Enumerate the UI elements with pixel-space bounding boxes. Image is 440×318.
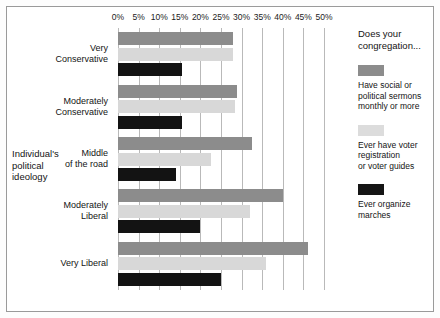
x-axis-tick-40%: 40%	[274, 12, 291, 22]
legend-title-line-2: congregation...	[358, 40, 432, 52]
bar[interactable]	[118, 220, 200, 233]
legend-label-marches-line-1: Ever organize	[358, 199, 432, 210]
legend-swatch-marches	[358, 184, 384, 195]
category-label-line: Conservative	[0, 54, 108, 65]
bar[interactable]	[118, 32, 233, 45]
x-axis-tick-30%: 30%	[233, 12, 250, 22]
category-label-moderately-liberal: ModeratelyLiberal	[0, 200, 108, 222]
legend-label-voter-registration: Ever have voter registration or voter gu…	[358, 140, 432, 172]
legend-label-sermons-line-1: Have social or	[358, 80, 432, 91]
category-label-line: Conservative	[0, 107, 108, 118]
bar[interactable]	[118, 116, 182, 129]
x-axis-tick-10%: 10%	[151, 12, 168, 22]
legend-title-line-1: Does your	[358, 28, 432, 40]
category-label-line: Very Liberal	[0, 258, 108, 269]
bar[interactable]	[118, 85, 237, 98]
x-axis-tick-35%: 35%	[254, 12, 271, 22]
bar[interactable]	[118, 242, 308, 255]
legend-item-sermons[interactable]: Have social or political sermons monthly…	[358, 65, 432, 112]
gridline-50%	[324, 28, 325, 290]
category-label-line: of the road	[0, 159, 108, 170]
plot-area: 0%5%10%15%20%25%30%35%40%45%50%	[118, 28, 324, 290]
y-axis-title-line-3: ideology	[12, 171, 90, 183]
x-axis-tick-0%: 0%	[112, 12, 124, 22]
x-axis-tick-5%: 5%	[132, 12, 144, 22]
legend-swatch-voter-registration	[358, 125, 384, 136]
chart-frame: Individual's political ideology 0%5%10%1…	[0, 0, 440, 318]
category-label-line: Very	[0, 43, 108, 54]
category-label-very-conservative: VeryConservative	[0, 43, 108, 65]
x-axis-tick-50%: 50%	[315, 12, 332, 22]
bar[interactable]	[118, 273, 221, 286]
x-axis-tick-25%: 25%	[212, 12, 229, 22]
legend-label-voter-registration-line-1: Ever have voter	[358, 140, 432, 151]
bar[interactable]	[118, 189, 283, 202]
bar[interactable]	[118, 205, 250, 218]
legend-title: Does your congregation...	[358, 28, 432, 51]
legend-swatch-sermons	[358, 65, 384, 76]
legend-label-sermons: Have social or political sermons monthly…	[358, 80, 432, 112]
category-label-line: Moderately	[0, 200, 108, 211]
category-label-line: Liberal	[0, 211, 108, 222]
bar[interactable]	[118, 48, 233, 61]
x-axis-tick-20%: 20%	[192, 12, 209, 22]
bar[interactable]	[118, 137, 252, 150]
x-axis-tick-15%: 15%	[171, 12, 188, 22]
bar[interactable]	[118, 100, 235, 113]
category-label-line: Moderately	[0, 96, 108, 107]
x-axis-tick-45%: 45%	[295, 12, 312, 22]
legend-label-sermons-line-3: monthly or more	[358, 101, 432, 112]
category-label-middle-of-the-road: Middleof the road	[0, 148, 108, 170]
legend-label-marches: Ever organize marches	[358, 199, 432, 220]
bar[interactable]	[118, 63, 182, 76]
category-label-line: Middle	[0, 148, 108, 159]
category-label-moderately-conservative: ModeratelyConservative	[0, 96, 108, 118]
category-label-very-liberal: Very Liberal	[0, 258, 108, 269]
legend-label-voter-registration-line-3: or voter guides	[358, 161, 432, 172]
legend-label-voter-registration-line-2: registration	[358, 150, 432, 161]
legend-item-marches[interactable]: Ever organize marches	[358, 184, 432, 220]
legend-item-voter-registration[interactable]: Ever have voter registration or voter gu…	[358, 125, 432, 172]
bar[interactable]	[118, 153, 211, 166]
legend-label-marches-line-2: marches	[358, 210, 432, 221]
legend-label-sermons-line-2: political sermons	[358, 91, 432, 102]
bar[interactable]	[118, 168, 176, 181]
chart-legend: Does your congregation... Have social or…	[358, 28, 432, 233]
bar[interactable]	[118, 257, 266, 270]
